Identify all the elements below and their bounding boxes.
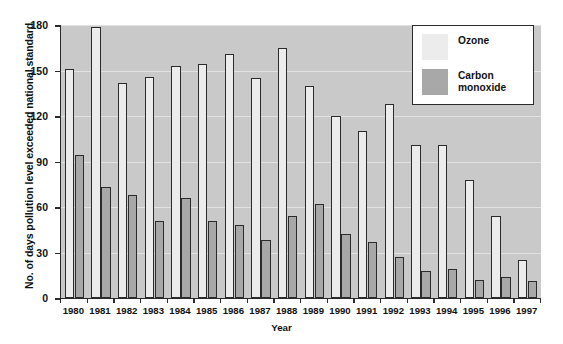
x-tick-label-1984: 1984: [167, 305, 194, 316]
x-tick-mark: [407, 298, 408, 303]
y-tick-label: 30: [8, 247, 48, 259]
gridline: [61, 162, 541, 163]
gridline: [61, 116, 541, 117]
bar-ozone-1997: [518, 260, 527, 298]
bar-carbon-monoxide-1984: [181, 198, 190, 298]
x-tick-label-1985: 1985: [193, 305, 220, 316]
x-tick-mark: [193, 298, 194, 303]
bar-ozone-1992: [385, 104, 394, 298]
legend-swatch-carbon-monoxide-icon: [422, 69, 448, 95]
bar-carbon-monoxide-1993: [421, 271, 430, 298]
x-tick-mark: [220, 298, 221, 303]
bar-carbon-monoxide-1987: [261, 240, 270, 298]
x-tick-mark: [167, 298, 168, 303]
bar-carbon-monoxide-1990: [341, 234, 350, 298]
pollution-bar-chart: No. of days pollution level exceeded nat…: [0, 0, 563, 344]
legend-label-ozone: Ozone: [458, 34, 489, 47]
x-tick-label-1982: 1982: [113, 305, 140, 316]
bar-carbon-monoxide-1986: [235, 225, 244, 298]
x-tick-label-1990: 1990: [327, 305, 354, 316]
x-tick-mark: [87, 298, 88, 303]
legend-swatch-ozone-icon: [422, 34, 448, 60]
bar-ozone-1982: [118, 83, 127, 298]
bar-ozone-1980: [65, 69, 74, 298]
x-tick-label-1996: 1996: [487, 305, 514, 316]
bar-carbon-monoxide-1995: [475, 280, 484, 298]
y-tick-label: 180: [8, 19, 48, 31]
x-tick-label-1997: 1997: [513, 305, 540, 316]
legend-label-carbon-monoxide: Carbonmonoxide: [458, 69, 506, 94]
y-tick-label: 120: [8, 110, 48, 122]
y-tick-label: 60: [8, 201, 48, 213]
y-tick-label: 0: [8, 292, 48, 304]
bar-ozone-1996: [491, 216, 500, 298]
bar-ozone-1991: [358, 131, 367, 298]
x-tick-mark: [540, 298, 541, 303]
bar-ozone-1988: [278, 48, 287, 298]
x-tick-label-1986: 1986: [220, 305, 247, 316]
x-tick-mark: [433, 298, 434, 303]
bar-carbon-monoxide-1983: [155, 221, 164, 298]
bar-ozone-1984: [171, 66, 180, 298]
x-tick-label-1988: 1988: [273, 305, 300, 316]
y-tick-label: 150: [8, 65, 48, 77]
bar-ozone-1983: [145, 77, 154, 298]
bar-carbon-monoxide-1994: [448, 269, 457, 298]
x-tick-mark: [113, 298, 114, 303]
x-tick-mark: [327, 298, 328, 303]
x-tick-mark: [380, 298, 381, 303]
x-tick-mark: [273, 298, 274, 303]
x-tick-label-1989: 1989: [300, 305, 327, 316]
legend-label-carbon: Carbon: [458, 70, 494, 81]
bar-carbon-monoxide-1996: [501, 277, 510, 298]
bar-ozone-1985: [198, 64, 207, 298]
legend-item-ozone: Ozone: [422, 34, 524, 60]
x-tick-mark: [487, 298, 488, 303]
bar-carbon-monoxide-1989: [315, 204, 324, 298]
x-axis-title: Year: [0, 322, 563, 333]
bar-carbon-monoxide-1982: [128, 195, 137, 298]
bar-ozone-1990: [331, 116, 340, 298]
x-tick-mark: [460, 298, 461, 303]
legend-item-carbon-monoxide: Carbonmonoxide: [422, 69, 524, 95]
x-tick-label-1994: 1994: [433, 305, 460, 316]
x-tick-label-1995: 1995: [460, 305, 487, 316]
bar-carbon-monoxide-1980: [75, 155, 84, 298]
bar-carbon-monoxide-1981: [101, 187, 110, 298]
x-tick-label-1992: 1992: [380, 305, 407, 316]
legend-label-monoxide: monoxide: [458, 82, 506, 93]
x-tick-mark: [247, 298, 248, 303]
bar-carbon-monoxide-1988: [288, 216, 297, 298]
x-tick-mark: [300, 298, 301, 303]
x-tick-label-1987: 1987: [247, 305, 274, 316]
y-tick-label: 90: [8, 156, 48, 168]
bar-ozone-1989: [305, 86, 314, 298]
chart-legend: Ozone Carbonmonoxide: [412, 25, 534, 105]
bar-ozone-1986: [225, 54, 234, 298]
x-tick-label-1980: 1980: [60, 305, 87, 316]
x-tick-mark: [513, 298, 514, 303]
bar-ozone-1993: [411, 145, 420, 298]
bar-carbon-monoxide-1991: [368, 242, 377, 298]
x-tick-mark: [353, 298, 354, 303]
x-tick-label-1991: 1991: [353, 305, 380, 316]
bar-ozone-1981: [91, 27, 100, 298]
bar-carbon-monoxide-1985: [208, 221, 217, 298]
x-tick-label-1983: 1983: [140, 305, 167, 316]
x-tick-label-1981: 1981: [87, 305, 114, 316]
bar-ozone-1994: [438, 145, 447, 298]
x-tick-mark: [140, 298, 141, 303]
bar-ozone-1995: [465, 180, 474, 298]
bar-carbon-monoxide-1997: [528, 281, 537, 298]
bar-carbon-monoxide-1992: [395, 257, 404, 298]
x-tick-mark: [60, 298, 61, 303]
bar-ozone-1987: [251, 78, 260, 298]
x-tick-label-1993: 1993: [407, 305, 434, 316]
